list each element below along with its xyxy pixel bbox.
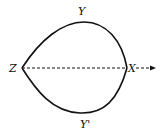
label-x-right: X [127,62,137,75]
lower-curve [22,68,127,113]
arrowhead-icon [150,66,156,71]
curve-diagram: Y Y' Z X [0,0,165,135]
label-y-top: Y [78,5,87,18]
label-y-prime-bottom: Y' [80,118,90,131]
upper-curve [22,22,127,68]
label-z-left: Z [8,62,17,75]
